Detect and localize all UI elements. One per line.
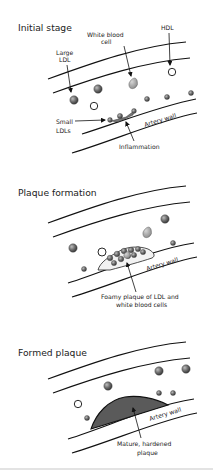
label-white-blood-cell-2: cell [101,38,112,45]
label-white-blood-cell: White blood [87,31,124,38]
large-ldl-particle [94,85,102,93]
panel-title: Plaque formation [18,187,97,198]
artery-wall-inner-line [82,99,196,134]
plaque-cell [118,256,124,262]
small-ldl-particle [145,97,150,102]
vessel-upper-inner-wall [53,58,190,93]
label-foamy-plaque: Foamy plaque of LDL and [101,293,179,301]
vessel-upper-inner-wall [53,202,190,237]
panel-title: Initial stage [18,22,72,33]
label-inflammation: Inflammation [119,143,160,150]
large-ldl-particle [104,382,112,390]
hdl-particle [74,400,81,407]
large-ldl-particle [155,367,163,375]
arrow-white-blood-cell [124,46,131,76]
small-ldl-particle [157,391,162,396]
panel-plaque-formation: Plaque formation Artery wall Foamy plaqu… [18,186,197,308]
small-ldl-particle [85,416,90,421]
label-mature-plaque: Mature, hardened [117,440,171,447]
label-small-ldls: Small [56,118,73,125]
panel-title: Formed plaque [18,347,87,358]
large-ldl-particle [70,96,78,104]
label-small-ldls-2: LDLs [56,127,71,134]
plaque-cell [111,260,116,265]
plaque-cell [140,249,145,254]
plaque-cell [135,246,140,251]
vessel-upper-inner-wall [53,358,190,393]
label-large-ldl-2: LDL [59,56,71,63]
large-ldl-particle [161,215,169,223]
label-artery-wall: Artery wall [143,112,177,129]
arrow-inflammation [126,122,134,141]
small-ldl-particle [132,109,137,114]
artery-wall-outer-line [72,413,197,453]
small-ldl-particle [165,95,170,100]
hdl-particle [98,248,106,256]
panel-initial-stage: Initial stage Large LDL White blood cell… [18,22,197,153]
hdl-particle [168,68,175,75]
panel-formed-plaque: Formed plaque Artery wall Mature, harden… [18,342,197,457]
label-hdl: HDL [161,24,174,31]
small-ldl-particle [171,241,176,246]
small-ldl-particle [117,113,122,118]
label-foamy-plaque-2: white blood cells [116,301,167,308]
small-ldl-particle [82,267,87,272]
small-ldl-particle [171,391,176,396]
arrow-small-ldls [75,120,105,121]
atherosclerosis-diagram: Initial stage Large LDL White blood cell… [0,0,213,476]
small-ldl-particle [108,118,113,123]
white-blood-cell [129,78,138,89]
small-ldl-particle [189,91,194,96]
large-ldl-particle [182,365,190,373]
large-ldl-particle [69,244,77,252]
hdl-particle [90,102,97,109]
plaque-cell [131,252,136,257]
label-mature-plaque-2: plaque [137,449,158,457]
plaque-cell [114,251,120,257]
plaque-cell [107,255,113,261]
white-blood-cell [143,227,152,238]
